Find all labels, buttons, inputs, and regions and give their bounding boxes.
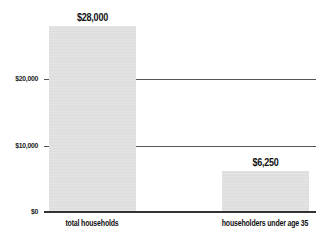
bar-chart: $20,000 $10,000 $0 $28,000 $6,250 total …: [0, 0, 330, 241]
x-axis-baseline: [44, 211, 316, 213]
bar-householders-under-35: [222, 171, 309, 212]
y-tick-label-20000: $20,000: [7, 74, 38, 83]
value-label-householders-under-35: $6,250: [230, 156, 301, 168]
value-label-total-households: $28,000: [57, 11, 128, 23]
category-label-householders-under-35: householders under age 35: [212, 218, 319, 228]
bar-total-households: [49, 26, 136, 212]
y-tick-label-0: $0: [7, 207, 38, 216]
category-label-total-households: total households: [43, 218, 141, 228]
y-tick-label-10000: $10,000: [7, 141, 38, 150]
